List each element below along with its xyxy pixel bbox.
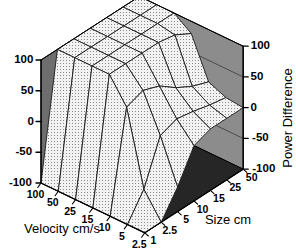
size-tick-label: 5 [183, 214, 189, 225]
velocity-tick-label: 10 [99, 222, 111, 233]
velocity-tick-label: 2.5 [132, 239, 147, 250]
velocity-tick-label: 5 [119, 230, 125, 241]
size-tick-label: 2.5 [162, 224, 177, 235]
power-difference-axis-title: Power Difference [281, 68, 294, 167]
size-tick-label: 50 [246, 171, 258, 182]
z-tick-label-right: 100 [251, 40, 270, 52]
z-tick-label-right: 0 [250, 102, 256, 114]
velocity-tick-label: 25 [64, 205, 76, 216]
z-tick-label-right: 50 [251, 71, 264, 83]
size-tick-label: 15 [213, 193, 225, 204]
z-tick-label-left: 0 [27, 116, 33, 128]
z-tick-label-left: 50 [21, 85, 34, 97]
velocity-tick-label: 50 [47, 197, 59, 208]
z-tick-label-right: -50 [252, 133, 269, 145]
size-tick-label: 1 [150, 235, 156, 246]
velocity-axis-title: Velocity cm/s [24, 222, 100, 235]
size-axis-title: Size cm [205, 213, 251, 226]
velocity-tick-label: 100 [27, 189, 45, 200]
z-tick-label-left: -50 [15, 147, 32, 159]
z-tick-label-left: 100 [14, 54, 33, 66]
size-tick-label: 25 [229, 182, 241, 193]
